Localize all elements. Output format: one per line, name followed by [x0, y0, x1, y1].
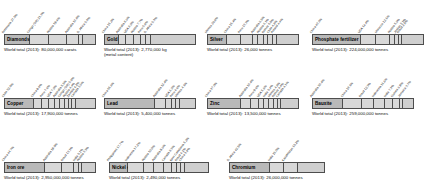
bar-segment-primary: Copper — [5, 99, 34, 108]
stacked-bar: Iron ore — [4, 162, 96, 173]
infographic-sheet: Botswana 27.5%Congo (DR) 21.3%Russia 19.… — [0, 0, 429, 192]
bar-segment — [298, 163, 324, 172]
country-share-label: Indonesia 17.2% — [124, 142, 141, 162]
bar-segment — [270, 163, 284, 172]
country-label-group: Chile 32.0%China 9.0%Peru 7.6%USA 7.0%Au… — [4, 68, 96, 98]
bar-segment — [76, 99, 95, 108]
bar-segment — [281, 99, 298, 108]
bar-segment — [144, 163, 154, 172]
bar-segment — [164, 163, 172, 172]
bar-segment — [82, 163, 95, 172]
world-total-caption: World total (2013): 2,490,000 tonnes — [109, 175, 243, 181]
bar-segment — [385, 99, 392, 108]
bar-segment-primary: Chromium — [230, 163, 270, 172]
bar-segment — [180, 99, 195, 108]
country-label-group: Philippines 17.7%Indonesia 17.2%Russia 1… — [109, 132, 209, 162]
commodity-name: Phosphate fertilizer — [315, 37, 359, 42]
country-share-label: Peru 13.3% — [238, 19, 251, 34]
country-share-label: China 18.1% — [341, 82, 355, 98]
country-label-group: Mexico 20.8%China 15.4%Peru 13.3%Austral… — [207, 4, 299, 34]
stacked-bar: Silver — [207, 34, 299, 45]
bar-segment — [34, 99, 42, 108]
stacked-bar: Chromium — [229, 162, 325, 173]
commodity-name: Silver — [210, 37, 223, 42]
bar-segment — [393, 99, 400, 108]
country-label-group: Australia 30.4%China 18.1%Brazil 12.3%In… — [312, 68, 414, 98]
stacked-bar: Copper — [4, 98, 96, 109]
bar-segment — [151, 35, 195, 44]
country-share-label: USA 14.4% — [358, 19, 370, 34]
stacked-bar: Lead — [104, 98, 196, 109]
country-share-label: China 15.2% — [102, 18, 116, 34]
commodity-name: Bauxite — [315, 101, 332, 106]
bar-segment — [277, 35, 298, 44]
country-share-label: Russia 19.4% — [46, 17, 60, 34]
bar-segment — [42, 99, 49, 108]
country-share-label: Australia 19.0% — [43, 143, 59, 162]
bar-segment-primary: Nickel ore — [110, 163, 128, 172]
bar-segment — [67, 35, 79, 44]
stacked-bar: Gold — [104, 34, 196, 45]
bar-segment-primary: Zinc — [208, 99, 241, 108]
country-label-group: China 37.0%Australia 10.4%Peru 9.6%USA 5… — [207, 68, 299, 98]
country-share-label: China 43.3% — [310, 18, 324, 34]
world-total-caption: World total (2013): 259,000,000 tonnes — [312, 111, 429, 117]
bar-segment-primary: Gold — [105, 35, 119, 44]
country-share-label: Australia 30.4% — [310, 79, 326, 98]
bar-segment — [403, 99, 413, 108]
country-share-label: China 55.6% — [102, 82, 116, 98]
country-share-label: China 44.7% — [2, 146, 16, 162]
bar-segment — [134, 35, 141, 44]
bar-segment — [128, 163, 145, 172]
country-label-group: Botswana 27.5%Congo (DR) 21.3%Russia 19.… — [4, 4, 96, 34]
country-label-group: China 55.6%Australia 12.4%USA 6.3%Peru 4… — [104, 68, 196, 98]
commodity-name: Diamonds — [7, 37, 30, 42]
commodity-name: Zinc — [210, 101, 220, 106]
commodity-name: Lead — [107, 101, 118, 106]
country-label-group: China 44.7%Australia 19.0%Brazil 13.1%In… — [4, 132, 96, 162]
bar-segment — [284, 163, 298, 172]
country-share-label: Congo (DR) 21.3% — [27, 11, 46, 34]
bar-segment — [241, 35, 253, 44]
bar-segment — [251, 99, 260, 108]
chart-panel: Australia 30.4%China 18.1%Brazil 12.3%In… — [312, 68, 429, 116]
country-share-label: Botswana 27.5% — [2, 13, 19, 34]
stacked-bar: Phosphate fertilizer — [312, 34, 424, 45]
bar-segment — [49, 35, 66, 44]
bar-segment — [376, 35, 389, 44]
commodity-name: Gold — [107, 37, 118, 42]
bar-segment — [227, 35, 241, 44]
country-share-label: S. Africa 42.5% — [227, 143, 243, 162]
bar-segment — [343, 99, 361, 108]
commodity-name: Chromium — [232, 165, 255, 170]
bar-segment — [119, 35, 127, 44]
bar-segment — [126, 35, 133, 44]
chart-panel: Philippines 17.7%Indonesia 17.2%Russia 1… — [109, 132, 243, 180]
bar-segment — [402, 35, 423, 44]
bar-segment — [30, 35, 49, 44]
bar-segment — [62, 163, 74, 172]
bar-segment — [155, 99, 166, 108]
bar-segment-primary: Silver — [208, 35, 227, 44]
bar-segment — [362, 99, 374, 108]
country-label-group: S. Africa 42.5%India 15.0%Kazakhstan 15.… — [229, 132, 325, 162]
chart-panel: China 43.3%USA 14.4%Morocco 12.1%Russia … — [312, 4, 429, 52]
bar-segment-primary: Phosphate fertilizer — [313, 35, 361, 44]
country-share-label: Mexico 20.8% — [205, 16, 220, 34]
country-share-label: India 15.0% — [267, 147, 280, 162]
bar-segment — [374, 99, 386, 108]
stacked-bar: Diamonds — [4, 34, 96, 45]
stacked-bar: Nickel ore — [109, 162, 209, 173]
bar-segment-primary: Bauxite — [313, 99, 343, 108]
country-label-group: China 15.2%Australia 8.6%USA 8.0%Russia … — [104, 4, 196, 34]
bar-segment — [185, 163, 208, 172]
world-total-caption: World total (2013): 224,000,000 tonnes — [312, 47, 429, 53]
bar-segment-primary: Iron ore — [5, 163, 45, 172]
stacked-bar: Bauxite — [312, 98, 414, 109]
country-share-label: S. Africa 5.0% — [77, 16, 92, 34]
chart-panel: S. Africa 42.5%India 15.0%Kazakhstan 15.… — [229, 132, 357, 180]
bar-segment-primary: Lead — [105, 99, 155, 108]
country-share-label: China 37.0% — [205, 82, 219, 98]
bar-segment — [45, 163, 62, 172]
country-share-label: China 15.4% — [224, 18, 238, 34]
